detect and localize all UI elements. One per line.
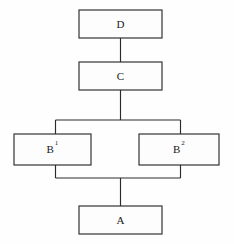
diagram-canvas: D C B1 B2 A: [0, 0, 234, 244]
node-b1[interactable]: B1: [14, 134, 91, 165]
node-b2[interactable]: B2: [139, 134, 219, 165]
node-c-label: C: [117, 69, 125, 81]
node-d-label: D: [116, 17, 124, 29]
node-d[interactable]: D: [79, 10, 162, 38]
block-diagram: D C B1 B2 A: [0, 0, 234, 244]
node-a-label: A: [116, 213, 124, 225]
node-a[interactable]: A: [79, 206, 162, 234]
node-c[interactable]: C: [79, 62, 162, 90]
